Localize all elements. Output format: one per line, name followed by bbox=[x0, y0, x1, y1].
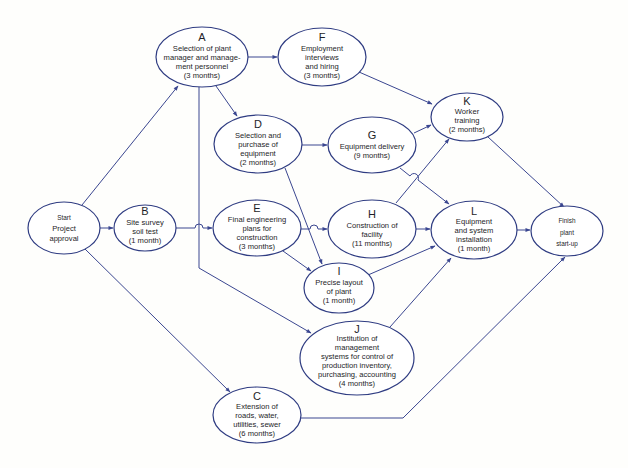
node-k-line-3: (2 months) bbox=[449, 125, 486, 134]
node-b-line-1: Site survey bbox=[126, 218, 164, 227]
node-d-line-1: Selection and bbox=[235, 131, 281, 140]
node-l-letter: L bbox=[471, 205, 477, 217]
edge-e-i bbox=[283, 251, 311, 271]
node-a-line-1: Selection of plant bbox=[173, 44, 232, 53]
node-finish-line-3: start-up bbox=[556, 240, 578, 248]
node-c-line-4: (6 months) bbox=[239, 429, 276, 438]
node-l-line-3: installation bbox=[456, 235, 492, 244]
node-d-line-3: equipment bbox=[240, 149, 276, 158]
node-c-line-3: utilities, sewer bbox=[233, 420, 281, 429]
node-f-line-4: (3 months) bbox=[304, 71, 341, 80]
node-a-letter: A bbox=[198, 31, 206, 43]
node-d-letter: D bbox=[254, 118, 262, 130]
edge-f-k bbox=[359, 72, 432, 104]
node-j-line-4: production inventory, bbox=[322, 361, 392, 370]
node-h-line-3: (11 months) bbox=[352, 239, 392, 248]
node-j: J Institution of management systems for … bbox=[300, 321, 414, 395]
node-finish-line-2: plant bbox=[560, 229, 574, 237]
node-g: G Equipment delivery (9 months) bbox=[328, 117, 416, 173]
node-b-line-3: (1 month) bbox=[129, 236, 162, 245]
node-start-line-2: Project bbox=[52, 224, 77, 233]
node-g-letter: G bbox=[368, 129, 377, 141]
node-h-letter: H bbox=[368, 208, 376, 220]
node-b-letter: B bbox=[141, 205, 148, 217]
edge-j-l bbox=[390, 258, 451, 327]
node-a-line-4: (3 months) bbox=[184, 71, 221, 80]
edge-g-k bbox=[414, 125, 431, 133]
node-start-line-1: Start bbox=[57, 214, 71, 221]
node-e-line-2: plans for bbox=[242, 224, 272, 233]
edge-e-h bbox=[300, 225, 327, 229]
node-g-line-2: (9 months) bbox=[354, 151, 391, 160]
node-l-line-2: and system bbox=[455, 226, 494, 235]
node-i-line-3: (1 month) bbox=[323, 296, 356, 305]
node-l: L Equipment and system installation (1 m… bbox=[431, 201, 517, 259]
node-e-letter: E bbox=[253, 202, 260, 214]
node-d-line-4: (2 months) bbox=[240, 158, 277, 167]
node-e-line-1: Final engineering bbox=[228, 215, 286, 224]
node-f-letter: F bbox=[319, 31, 326, 43]
node-k-line-2: training bbox=[455, 116, 480, 125]
node-k-letter: K bbox=[463, 95, 471, 107]
node-b-line-2: soil test bbox=[132, 227, 159, 236]
network-diagram: Start Project approval A Selection of pl… bbox=[0, 0, 628, 468]
node-h-line-2: facility bbox=[361, 230, 382, 239]
node-i: I Precise layout of plant (1 month) bbox=[304, 263, 374, 313]
node-c-line-1: Extension of bbox=[236, 402, 279, 411]
node-f-line-1: Employment bbox=[301, 44, 344, 53]
node-h-line-1: Construction of bbox=[346, 221, 398, 230]
node-finish-line-1: Finish bbox=[558, 217, 575, 224]
node-i-line-1: Precise layout bbox=[315, 278, 364, 287]
edge-start-a bbox=[82, 86, 178, 205]
node-finish: Finish plant start-up bbox=[531, 206, 603, 256]
node-l-line-4: (1 month) bbox=[458, 244, 491, 253]
edge-start-c bbox=[85, 249, 230, 392]
node-e-line-4: (3 months) bbox=[239, 242, 276, 251]
edge-g-l bbox=[400, 168, 449, 204]
node-i-letter: I bbox=[337, 265, 340, 277]
node-a-line-3: ment personnel bbox=[176, 62, 229, 71]
node-f-line-3: and hiring bbox=[305, 62, 338, 71]
node-j-line-3: systems for control of bbox=[321, 352, 394, 361]
node-a-line-2: manager and manage- bbox=[164, 53, 241, 62]
node-c-letter: C bbox=[253, 390, 261, 402]
node-k-line-1: Worker bbox=[455, 107, 480, 116]
node-g-line-1: Equipment delivery bbox=[340, 142, 405, 151]
node-k: K Worker training (2 months) bbox=[431, 93, 503, 141]
node-f: F Employment interviews and hiring (3 mo… bbox=[278, 28, 366, 86]
node-start-line-3: approval bbox=[49, 234, 78, 243]
node-c: C Extension of roads, water, utilities, … bbox=[213, 387, 301, 443]
node-f-line-2: interviews bbox=[305, 53, 339, 62]
node-start: Start Project approval bbox=[28, 202, 100, 254]
node-j-line-1: Institution of bbox=[337, 334, 379, 343]
node-j-line-6: (4 months) bbox=[339, 379, 376, 388]
node-d-line-2: purchase of bbox=[238, 140, 279, 149]
node-j-line-5: purchasing, accounting bbox=[318, 370, 396, 379]
node-l-line-1: Equipment bbox=[456, 217, 493, 226]
node-c-line-2: roads, water, bbox=[235, 411, 278, 420]
node-a: A Selection of plant manager and manage-… bbox=[156, 27, 248, 87]
node-h: H Construction of facility (11 months) bbox=[328, 200, 416, 258]
node-e-line-3: construction bbox=[237, 233, 278, 242]
edge-b-e bbox=[175, 224, 212, 228]
node-d: D Selection and purchase of equipment (2… bbox=[214, 115, 302, 173]
node-b: B Site survey soil test (1 month) bbox=[114, 205, 176, 251]
node-i-line-2: of plant bbox=[327, 287, 353, 296]
edge-k-finish bbox=[488, 137, 564, 207]
node-e: E Final engineering plans for constructi… bbox=[213, 200, 301, 256]
edge-a-d bbox=[216, 86, 237, 116]
node-j-line-2: management bbox=[335, 343, 380, 352]
